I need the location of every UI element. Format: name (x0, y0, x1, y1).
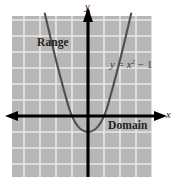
equation-label: y = x2 − 1 (110, 60, 152, 71)
y-axis-label: y (85, 2, 90, 13)
x-axis-label: x (166, 110, 171, 121)
graph-canvas (0, 0, 179, 191)
range-label: Range (37, 37, 69, 49)
grid-panel (12, 16, 152, 177)
parabola-figure: Range Domain y = x2 − 1 x y (0, 0, 179, 191)
equation-tail: − 1 (135, 59, 152, 70)
domain-label: Domain (108, 120, 148, 132)
equation-equals: = (115, 59, 127, 70)
